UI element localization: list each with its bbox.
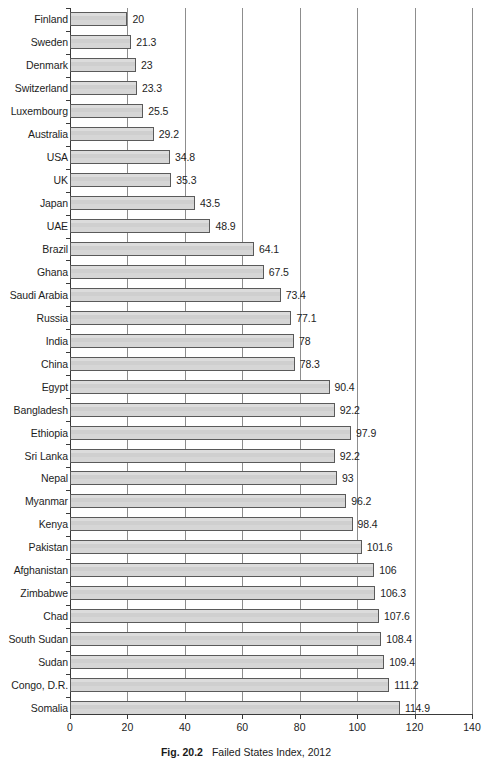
x-axis-tick-label-40: 40 xyxy=(179,722,191,733)
category-label-south-sudan: South Sudan xyxy=(8,634,68,645)
bar-row: Bangladesh92.2 xyxy=(0,398,492,421)
category-label-chad: Chad xyxy=(43,611,68,622)
bar-usa xyxy=(70,150,170,164)
bar-afghanistan xyxy=(70,563,374,577)
y-axis-tick xyxy=(66,283,70,284)
bar-luxembourg xyxy=(70,104,143,118)
bar-value-label: 108.4 xyxy=(386,634,412,645)
y-axis-tick xyxy=(66,490,70,491)
x-axis-tick-label-100: 100 xyxy=(348,722,366,733)
bar-row: Sudan109.4 xyxy=(0,651,492,674)
y-axis-tick xyxy=(66,697,70,698)
bar-value-label: 97.9 xyxy=(356,427,376,438)
bar-value-label: 93 xyxy=(342,473,353,484)
category-label-bangladesh: Bangladesh xyxy=(14,404,68,415)
bar-row: Congo, D.R.111.2 xyxy=(0,674,492,697)
y-axis-tick xyxy=(66,651,70,652)
y-axis-tick xyxy=(66,628,70,629)
x-axis-tick-40 xyxy=(185,714,186,719)
y-axis-tick xyxy=(66,559,70,560)
x-axis-tick-label-0: 0 xyxy=(67,722,73,733)
x-axis-tick-60 xyxy=(242,714,243,719)
bar-value-label: 29.2 xyxy=(159,129,179,140)
x-axis-tick-label-80: 80 xyxy=(294,722,306,733)
x-axis-line xyxy=(70,714,473,715)
bar-value-label: 98.4 xyxy=(358,519,378,530)
bar-value-label: 20 xyxy=(132,14,143,25)
y-axis-tick xyxy=(66,674,70,675)
bar-value-label: 106.3 xyxy=(380,588,406,599)
y-axis-tick xyxy=(66,215,70,216)
bar-chad xyxy=(70,609,379,623)
bar-value-label: 43.5 xyxy=(200,198,220,209)
bar-chart-plot-area: Finland20Sweden21.3Denmark23Switzerland2… xyxy=(0,0,492,714)
category-label-luxembourg: Luxembourg xyxy=(11,106,68,117)
figure-container: Finland20Sweden21.3Denmark23Switzerland2… xyxy=(0,0,492,767)
bar-row: China78.3 xyxy=(0,352,492,375)
category-label-sudan: Sudan xyxy=(38,657,68,668)
y-axis-tick xyxy=(66,77,70,78)
category-label-saudi-arabia: Saudi Arabia xyxy=(10,290,68,301)
bar-value-label: 78 xyxy=(299,336,310,347)
bar-myanmar xyxy=(70,494,346,508)
bar-row: Switzerland23.3 xyxy=(0,77,492,100)
y-axis-tick xyxy=(66,306,70,307)
x-axis-tick-label-60: 60 xyxy=(236,722,248,733)
bar-row: Finland20 xyxy=(0,8,492,31)
bar-row: India78 xyxy=(0,329,492,352)
bar-uk xyxy=(70,173,171,187)
bar-row: Denmark23 xyxy=(0,54,492,77)
bar-south-sudan xyxy=(70,632,381,646)
y-axis-tick xyxy=(66,398,70,399)
y-axis-tick xyxy=(66,100,70,101)
y-axis-tick xyxy=(66,467,70,468)
y-axis-tick xyxy=(66,582,70,583)
y-axis-tick xyxy=(66,536,70,537)
bar-sudan xyxy=(70,655,384,669)
bar-value-label: 77.1 xyxy=(296,313,316,324)
category-label-nepal: Nepal xyxy=(41,473,68,484)
bar-value-label: 90.4 xyxy=(335,381,355,392)
category-label-uae: UAE xyxy=(47,221,68,232)
category-label-finland: Finland xyxy=(34,14,68,25)
bar-value-label: 106 xyxy=(379,565,396,576)
bar-row: Chad107.6 xyxy=(0,605,492,628)
bar-egypt xyxy=(70,380,330,394)
bar-value-label: 67.5 xyxy=(269,267,289,278)
bar-value-label: 111.2 xyxy=(394,680,418,691)
y-axis-tick xyxy=(66,375,70,376)
bar-finland xyxy=(70,12,127,26)
bar-india xyxy=(70,334,294,348)
figure-caption: Fig. 20.2Failed States Index, 2012 xyxy=(0,746,492,758)
y-axis-tick xyxy=(66,513,70,514)
bar-row: Afghanistan106 xyxy=(0,559,492,582)
x-axis-tick-120 xyxy=(415,714,416,719)
bar-row: UK35.3 xyxy=(0,169,492,192)
bar-value-label: 25.5 xyxy=(148,106,168,117)
bar-value-label: 96.2 xyxy=(351,496,371,507)
category-label-russia: Russia xyxy=(37,313,69,324)
bar-row: Sweden21.3 xyxy=(0,31,492,54)
bar-value-label: 64.1 xyxy=(259,244,279,255)
figure-caption-text: Failed States Index, 2012 xyxy=(212,746,331,758)
y-axis-tick xyxy=(66,421,70,422)
bar-value-label: 107.6 xyxy=(384,611,410,622)
y-axis-tick xyxy=(66,605,70,606)
bar-zimbabwe xyxy=(70,586,375,600)
bar-row: Russia77.1 xyxy=(0,306,492,329)
bar-sweden xyxy=(70,35,131,49)
bar-kenya xyxy=(70,517,353,531)
bar-switzerland xyxy=(70,81,137,95)
category-label-ethiopia: Ethiopia xyxy=(31,427,68,438)
x-axis-tick-80 xyxy=(300,714,301,719)
bar-china xyxy=(70,357,295,371)
bar-bangladesh xyxy=(70,403,335,417)
bar-row: Sri Lanka92.2 xyxy=(0,444,492,467)
bar-ghana xyxy=(70,265,264,279)
y-axis-tick xyxy=(66,238,70,239)
bar-row: UAE48.9 xyxy=(0,215,492,238)
category-label-zimbabwe: Zimbabwe xyxy=(20,588,68,599)
bar-row: Myanmar96.2 xyxy=(0,490,492,513)
y-axis-tick xyxy=(66,192,70,193)
bar-value-label: 35.3 xyxy=(176,175,196,186)
